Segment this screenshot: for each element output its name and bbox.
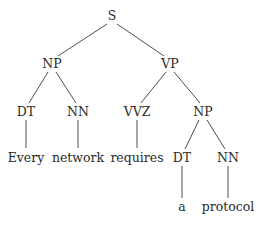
word-every: Every bbox=[8, 152, 45, 165]
node-s: S bbox=[108, 10, 117, 23]
node-np-object: NP bbox=[193, 106, 212, 119]
edge-s-np1 bbox=[58, 24, 107, 56]
node-dt-every: DT bbox=[17, 106, 35, 119]
edge-np2-dt2 bbox=[185, 120, 199, 149]
word-protocol: protocol bbox=[202, 201, 255, 214]
node-vp: VP bbox=[161, 58, 178, 71]
node-np-subject: NP bbox=[42, 58, 61, 71]
edge-np1-nn1 bbox=[56, 72, 76, 103]
node-vvz: VVZ bbox=[124, 106, 151, 119]
node-nn-network: NN bbox=[67, 106, 89, 119]
word-requires: requires bbox=[110, 152, 163, 165]
word-network: network bbox=[52, 152, 104, 165]
parse-tree-diagram: S NP VP DT NN VVZ NP Every network requi… bbox=[0, 0, 264, 230]
edge-np1-dt1 bbox=[29, 72, 48, 103]
node-dt-a: DT bbox=[173, 152, 191, 165]
edge-s-vp bbox=[117, 24, 164, 56]
edge-vp-vvz bbox=[141, 72, 166, 103]
word-a: a bbox=[178, 201, 185, 214]
node-nn-protocol: NN bbox=[217, 152, 239, 165]
edge-np2-nn2 bbox=[207, 120, 225, 149]
edge-vp-np2 bbox=[174, 72, 200, 103]
